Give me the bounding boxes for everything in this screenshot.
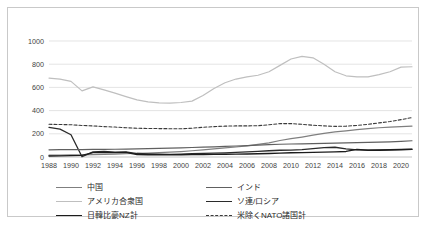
chart-frame: 0200400600800100019881990199219941996199…	[7, 7, 419, 217]
legend-item-nato_ex_us[interactable]: 米除くNATO諸国計	[206, 208, 376, 222]
x-axis-tick-label: 1992	[85, 161, 101, 170]
legend-label-india: インド	[237, 182, 261, 193]
x-axis-tick-label: 1990	[63, 161, 79, 170]
y-axis-tick-label: 400	[32, 106, 44, 115]
x-axis-tick-label: 2002	[195, 161, 211, 170]
legend-label-usa: アメリカ合衆国	[87, 196, 143, 207]
legend-label-china: 中国	[87, 182, 103, 193]
x-axis-tick-label: 2010	[283, 161, 299, 170]
x-axis-tick-label: 2012	[305, 161, 321, 170]
y-axis-tick-label: 600	[32, 83, 44, 92]
legend-label-nato_ex_us: 米除くNATO諸国計	[237, 210, 306, 221]
legend-swatch-china	[56, 187, 82, 188]
chart-legend: 中国インドアメリカ合衆国ソ連/ロシア日韓比豪NZ計米除くNATO諸国計	[56, 180, 376, 222]
x-axis-tick-label: 2006	[239, 161, 255, 170]
legend-swatch-ussr_russia	[206, 201, 232, 202]
legend-label-japan_group: 日韓比豪NZ計	[87, 210, 138, 221]
legend-item-india[interactable]: インド	[206, 180, 376, 194]
legend-item-ussr_russia[interactable]: ソ連/ロシア	[206, 194, 376, 208]
x-axis-tick-label: 2020	[393, 161, 409, 170]
x-axis-tick-label: 2008	[261, 161, 277, 170]
x-axis-tick-label: 2000	[173, 161, 189, 170]
x-axis-tick-label: 2016	[349, 161, 365, 170]
legend-item-usa[interactable]: アメリカ合衆国	[56, 194, 206, 208]
series-line-usa	[49, 56, 412, 103]
legend-item-japan_group[interactable]: 日韓比豪NZ計	[56, 208, 206, 222]
legend-item-china[interactable]: 中国	[56, 180, 206, 194]
legend-swatch-nato_ex_us	[206, 215, 232, 216]
series-line-china	[49, 126, 412, 155]
x-axis-tick-label: 2014	[327, 161, 343, 170]
x-axis-tick-label: 2018	[371, 161, 387, 170]
legend-swatch-india	[206, 187, 232, 188]
x-axis-tick-label: 2004	[217, 161, 233, 170]
x-axis-tick-label: 1998	[151, 161, 167, 170]
y-axis-tick-label: 1000	[28, 37, 44, 46]
x-axis-tick-label: 1996	[129, 161, 145, 170]
legend-swatch-japan_group	[56, 215, 82, 216]
series-line-nato_ex_us	[49, 118, 412, 129]
x-axis-tick-label: 1994	[107, 161, 123, 170]
y-axis-tick-label: 800	[32, 60, 44, 69]
series-line-india	[49, 141, 412, 150]
legend-label-ussr_russia: ソ連/ロシア	[237, 196, 279, 207]
legend-swatch-usa	[56, 201, 82, 202]
y-axis-tick-label: 200	[32, 129, 44, 138]
x-axis-tick-label: 1988	[41, 161, 57, 170]
